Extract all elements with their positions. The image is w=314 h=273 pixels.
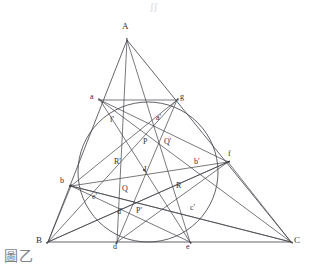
label-fp: f' — [110, 116, 114, 124]
label-dp: d' — [117, 208, 122, 216]
segment-g-b — [69, 99, 178, 188]
segment-A-B — [48, 40, 127, 242]
label-a: a — [90, 93, 94, 101]
label-ap: a' — [156, 114, 161, 122]
label-A: A — [122, 22, 129, 31]
label-b: b — [60, 177, 64, 185]
label-f: f — [228, 150, 231, 158]
segment-f-C — [227, 160, 292, 243]
segment-A-C — [127, 40, 291, 242]
label-e: e — [186, 243, 190, 251]
label-C: C — [294, 236, 300, 245]
label-cp: c' — [190, 204, 195, 212]
label-R: R — [176, 182, 181, 190]
geometry-figure: ʃʃ ABCIdeagbfa'b'c'd'e'f'PQRP'Q'R' 圖乙 — [0, 0, 314, 273]
diagram-canvas — [0, 0, 314, 273]
segment-e-b — [69, 185, 192, 243]
label-bp: b' — [194, 158, 199, 166]
label-Qp: Q' — [164, 138, 171, 146]
label-I: I — [144, 166, 147, 174]
label-B: B — [36, 236, 42, 245]
label-g: g — [180, 93, 184, 101]
label-P: P — [143, 138, 147, 146]
label-d: d — [113, 243, 117, 251]
figure-caption: 圖乙 — [4, 248, 34, 264]
label-Pp: P' — [136, 207, 142, 215]
label-Q: Q — [122, 185, 128, 193]
segment-f-B — [46, 161, 230, 243]
segment-b-B — [47, 184, 72, 244]
label-Rp: R' — [114, 158, 121, 166]
label-ep: e' — [92, 193, 97, 201]
